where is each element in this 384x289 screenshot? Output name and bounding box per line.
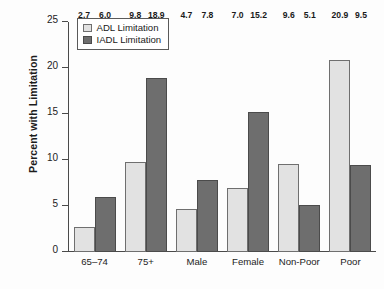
x-axis-tick-labels: 65–7475+MaleFemaleNon-PoorPoor (69, 256, 376, 267)
bar-container: 20.9 (329, 22, 350, 252)
y-axis-tick: 20 (62, 67, 68, 68)
bar-container: 7.0 (227, 22, 248, 252)
legend-item-adl: ADL Limitation (83, 22, 161, 34)
bar-container: 6.0 (95, 22, 116, 252)
x-axis-tick-label: Non-Poor (274, 256, 325, 267)
bar-value-label: 4.7 (180, 10, 192, 20)
bar-value-label: 20.9 (332, 10, 349, 20)
y-axis-tick-label: 10 (47, 152, 58, 163)
bar-container: 5.1 (299, 22, 320, 252)
bar[interactable]: 18.9 (146, 78, 167, 252)
bar-value-label: 15.2 (250, 10, 267, 20)
legend-swatch-adl-icon (83, 24, 92, 33)
bar-group: 9.65.1 (274, 22, 325, 252)
bar-container: 2.7 (74, 22, 95, 252)
chart-legend: ADL Limitation IADL Limitation (77, 18, 169, 50)
y-axis-tick: 15 (62, 113, 68, 114)
bar-container: 15.2 (248, 22, 269, 252)
bar-value-label: 5.1 (304, 10, 316, 20)
bar[interactable]: 5.1 (299, 205, 320, 252)
bar-container: 9.8 (125, 22, 146, 252)
x-axis-tick-label: Female (223, 256, 274, 267)
bar-group: 7.015.2 (223, 22, 274, 252)
bar-container: 18.9 (146, 22, 167, 252)
bar[interactable]: 7.0 (227, 188, 248, 252)
bar[interactable]: 2.7 (74, 227, 95, 252)
x-axis-tick-label: 65–74 (69, 256, 120, 267)
y-axis-title: Percent with Limitation (27, 19, 39, 209)
bar-container: 4.7 (176, 22, 197, 252)
y-axis-tick: 5 (62, 205, 68, 206)
y-axis-tick-label: 15 (47, 106, 58, 117)
bar-value-label: 9.5 (355, 10, 367, 20)
bar-group: 9.818.9 (120, 22, 171, 252)
y-axis-tick: 10 (62, 159, 68, 160)
legend-item-iadl: IADL Limitation (83, 34, 161, 46)
bar[interactable]: 4.7 (176, 209, 197, 252)
bar[interactable]: 15.2 (248, 112, 269, 252)
bar[interactable]: 6.0 (95, 197, 116, 252)
bar-value-label: 9.6 (283, 10, 295, 20)
bar-group: 4.77.8 (171, 22, 222, 252)
y-axis-tick-label: 20 (47, 60, 58, 71)
bar[interactable]: 7.8 (197, 180, 218, 252)
y-axis-tick-label: 25 (47, 14, 58, 25)
bar[interactable]: 20.9 (329, 60, 350, 252)
y-axis-tick: 0 (62, 251, 68, 252)
x-axis-tick-label: Poor (325, 256, 376, 267)
bar-value-label: 7.8 (201, 10, 213, 20)
bar[interactable]: 9.5 (350, 165, 371, 252)
y-axis-tick-label: 0 (52, 244, 58, 255)
bar-chart-figure: Percent with Limitation 0510152025 2.76.… (0, 0, 384, 289)
bar-group: 2.76.0 (69, 22, 120, 252)
legend-label-adl: ADL Limitation (97, 22, 159, 34)
bar-value-label: 7.0 (232, 10, 244, 20)
x-axis-tick-label: 75+ (120, 256, 171, 267)
x-axis-tick-label: Male (171, 256, 222, 267)
bar[interactable]: 9.8 (125, 162, 146, 252)
plot-area: 0510152025 2.76.09.818.94.77.87.015.29.6… (68, 22, 376, 252)
bar[interactable]: 9.6 (278, 164, 299, 252)
bar-container: 7.8 (197, 22, 218, 252)
bar-container: 9.5 (350, 22, 371, 252)
y-axis-tick: 25 (62, 21, 68, 22)
legend-label-iadl: IADL Limitation (97, 34, 162, 46)
bar-container: 9.6 (278, 22, 299, 252)
y-axis-tick-label: 5 (52, 198, 58, 209)
bar-group: 20.99.5 (325, 22, 376, 252)
bar-groups: 2.76.09.818.94.77.87.015.29.65.120.99.5 (69, 22, 376, 252)
legend-swatch-iadl-icon (83, 36, 92, 45)
